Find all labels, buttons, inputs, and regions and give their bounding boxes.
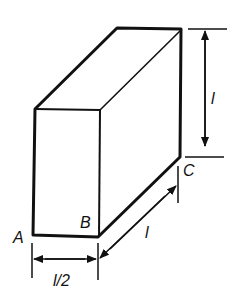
vertex-label-b: B bbox=[80, 214, 91, 231]
vertex-label-c: C bbox=[183, 162, 195, 179]
depth-dimension bbox=[100, 166, 178, 258]
front-right-edge bbox=[99, 110, 100, 237]
front-top-edge bbox=[35, 109, 100, 110]
vertex-label-a: A bbox=[12, 229, 24, 246]
block-silhouette bbox=[33, 28, 181, 237]
width-label: l/2 bbox=[53, 272, 70, 289]
depth-label: l bbox=[145, 224, 149, 241]
height-label: l bbox=[211, 90, 215, 107]
block-outline bbox=[33, 28, 181, 237]
height-dimension bbox=[185, 29, 227, 157]
top-diagonal-edge bbox=[100, 30, 181, 110]
block-diagram: l l/2 l A B C bbox=[0, 0, 235, 298]
